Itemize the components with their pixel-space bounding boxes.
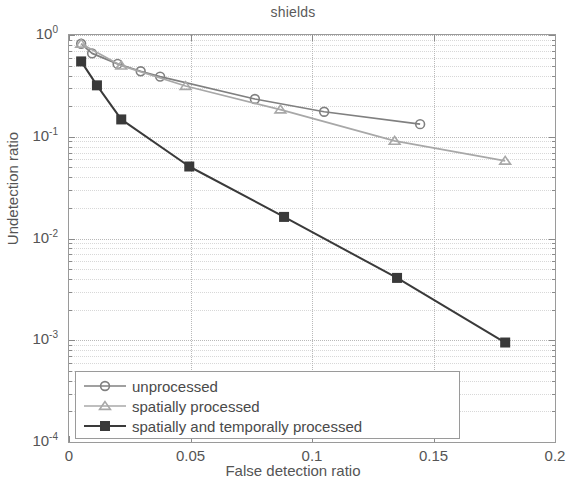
x-tick-label: 0.05 [151,447,231,464]
y-tick-label: 10-2 [0,228,58,246]
y-tick-label: 100 [0,24,58,42]
legend-label: spatially processed [128,398,260,415]
y-tick-label: 10-3 [0,329,58,347]
legend-label: spatially and temporally processed [128,418,362,435]
x-tick-label: 0.15 [394,447,474,464]
x-tick-label: 0 [29,447,109,464]
series-circle [77,39,425,128]
figure: shields Undetection ratio False detectio… [0,0,586,487]
x-axis-title: False detection ratio [0,462,586,479]
chart-title: shields [0,4,586,20]
series-triangle [76,39,511,164]
x-tick-label: 0.2 [515,447,586,464]
series-square [77,57,509,346]
legend-marker-circle-icon [82,377,128,395]
legend-marker-triangle-icon [82,397,128,415]
y-axis-title: Undetection ratio [4,59,21,319]
legend-item: spatially processed [82,396,453,416]
y-tick-label: 10-1 [0,126,58,144]
legend: unprocessed spatially processed spatiall… [75,371,460,439]
legend-item: spatially and temporally processed [82,416,453,436]
legend-label: unprocessed [128,378,218,395]
x-tick-label: 0.1 [272,447,352,464]
legend-item: unprocessed [82,376,453,396]
legend-marker-square-icon [82,417,128,435]
